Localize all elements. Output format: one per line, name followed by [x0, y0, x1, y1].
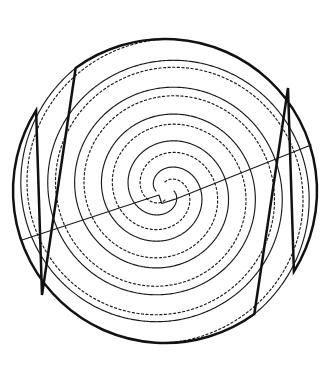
canvas-background [0, 0, 334, 384]
double-spiral-figure [0, 0, 334, 384]
figure-root [0, 0, 334, 384]
